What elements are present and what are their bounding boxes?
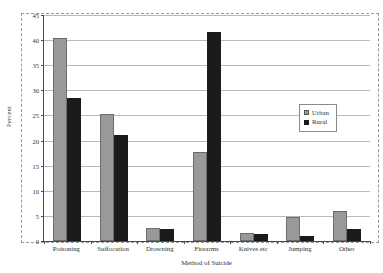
y-axis-title: Percent [5, 87, 12, 147]
legend-label-rural: Rural [312, 119, 327, 126]
bar-urban[interactable] [100, 114, 114, 241]
legend-swatch-rural-icon [304, 120, 309, 125]
x-axis-tick-mark [184, 241, 185, 244]
legend-item-urban[interactable]: Urban [304, 108, 329, 118]
legend-item-rural[interactable]: Rural [304, 118, 329, 128]
bar-urban[interactable] [53, 38, 67, 241]
legend-swatch-urban-icon [304, 110, 309, 115]
x-axis-tick-mark [137, 241, 138, 244]
bar-rural[interactable] [207, 32, 221, 241]
chart-legend: Urban Rural [299, 104, 337, 132]
bar-urban[interactable] [146, 228, 160, 241]
x-axis-tick-label: Firearms [183, 245, 230, 252]
x-axis-tick-mark [370, 241, 371, 244]
bar-group [44, 15, 91, 241]
x-axis-title: Method of Suicide [43, 259, 370, 266]
x-axis-labels: PoisoningSuffocationDrowningFirearmsKniv… [43, 245, 370, 252]
x-axis-tick-label: Suffocation [90, 245, 137, 252]
bar-rural[interactable] [67, 98, 81, 241]
x-axis-tick-label: Jumping [277, 245, 324, 252]
bar-urban[interactable] [193, 152, 207, 241]
x-axis-tick-mark [44, 241, 45, 244]
x-axis-tick-label: Poisoning [43, 245, 90, 252]
bar-group [184, 15, 231, 241]
bar-rural[interactable] [114, 135, 128, 241]
bar-rural[interactable] [160, 229, 174, 241]
bar-rural[interactable] [347, 229, 361, 241]
bar-urban[interactable] [240, 233, 254, 241]
bar-group [137, 15, 184, 241]
x-axis-tick-label: Knives etc [230, 245, 277, 252]
x-axis-tick-label: Drowning [136, 245, 183, 252]
x-axis-tick-label: Other [323, 245, 370, 252]
bar-urban[interactable] [286, 217, 300, 241]
bar-group [230, 15, 277, 241]
x-axis-tick-mark [91, 241, 92, 244]
x-axis-tick-mark [230, 241, 231, 244]
x-axis-tick-mark [277, 241, 278, 244]
x-axis-tick-mark [323, 241, 324, 244]
legend-label-urban: Urban [312, 110, 329, 117]
bar-urban[interactable] [333, 211, 347, 241]
bar-group [91, 15, 138, 241]
bar-chart-figure: Percent 051015202530354045 PoisoningSuff… [0, 0, 383, 273]
